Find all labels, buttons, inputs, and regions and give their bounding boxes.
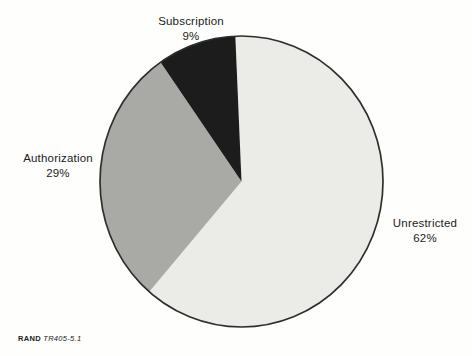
slice-name-unrestricted: Unrestricted — [393, 217, 457, 229]
slice-percent-unrestricted: 62% — [413, 232, 437, 244]
slice-name-authorization: Authorization — [23, 152, 93, 164]
pie-slices — [100, 36, 383, 327]
slice-label-authorization: Authorization 29% — [23, 151, 93, 181]
slice-percent-authorization: 29% — [46, 167, 70, 179]
slice-percent-subscription: 9% — [182, 30, 199, 42]
figure-id-label: TR405-5.1 — [43, 334, 81, 343]
slice-label-subscription: Subscription 9% — [158, 14, 224, 44]
slice-label-unrestricted: Unrestricted 62% — [393, 216, 457, 246]
slice-name-subscription: Subscription — [158, 15, 224, 27]
rand-brand-label: RAND — [18, 334, 41, 343]
figure-source-note: RAND TR405-5.1 — [18, 334, 81, 343]
figure-container: Subscription 9% Authorization 29% Unrest… — [0, 0, 472, 356]
